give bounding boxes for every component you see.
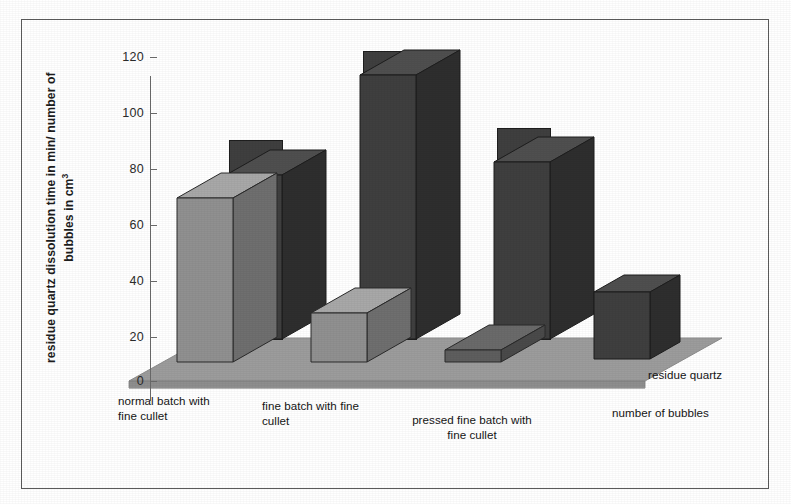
category-label-line1: fine batch with fine [262, 398, 397, 413]
series-label-text: residue quartz [648, 368, 722, 381]
bar3d-residue-quartz-3 [494, 137, 594, 339]
chart-page: 120 100 80 60 40 20 0 residue quartz dis… [0, 0, 791, 504]
series-label-residue-quartz: residue quartz [648, 368, 722, 381]
category-label-normal-batch: normal batch with fine cullet [118, 393, 248, 424]
bar-front-face [594, 292, 650, 359]
category-label-line1: pressed fine batch with [392, 412, 552, 427]
bar-front-face [311, 313, 367, 362]
series-label-text: number of bubbles [612, 406, 709, 419]
category-label-line2: fine cullet [392, 427, 552, 442]
bar3d-number-of-bubbles-3 [445, 325, 545, 362]
bar-right-face [416, 50, 460, 339]
bar-right-face [233, 173, 277, 362]
category-label-fine-batch: fine batch with fine cullet [262, 398, 397, 429]
series-label-number-of-bubbles: number of bubbles [612, 406, 709, 419]
bar-front-face [177, 198, 233, 362]
bar3d-number-of-bubbles-1 [177, 173, 277, 362]
figure-caption [30, 492, 750, 502]
category-label-pressed-fine-batch: pressed fine batch with fine cullet [392, 412, 552, 443]
bar-front-face [494, 162, 550, 339]
category-label-line2: fine cullet [118, 408, 248, 423]
category-label-line1: normal batch with [118, 393, 248, 408]
bar-right-face [550, 137, 594, 339]
bar-front-face [445, 350, 501, 362]
figure-frame: 120 100 80 60 40 20 0 residue quartz dis… [21, 19, 769, 489]
bar3d-residue-quartz-4 [594, 275, 680, 359]
category-label-line2: cullet [262, 413, 397, 428]
